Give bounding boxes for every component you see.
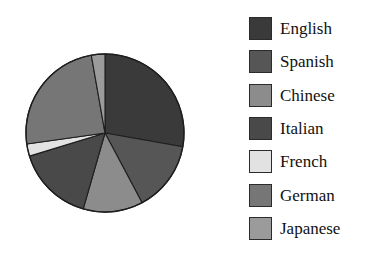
legend-item-label: Chinese bbox=[280, 87, 335, 104]
legend-swatch-icon bbox=[249, 184, 272, 207]
legend-swatch-icon bbox=[249, 17, 272, 40]
legend-swatch-icon bbox=[249, 217, 272, 240]
legend-swatch-icon bbox=[249, 150, 272, 173]
legend-item-label: English bbox=[280, 20, 332, 37]
legend-item-label: Italian bbox=[280, 120, 323, 137]
pie-chart-svg bbox=[23, 51, 187, 215]
legend-swatch-icon bbox=[249, 84, 272, 107]
legend-item-label: French bbox=[280, 153, 327, 170]
legend-item-german[interactable]: German bbox=[249, 178, 365, 211]
legend-item-italian[interactable]: Italian bbox=[249, 112, 365, 145]
legend-item-japanese[interactable]: Japanese bbox=[249, 212, 365, 245]
legend-swatch-icon bbox=[249, 117, 272, 140]
legend-item-label: German bbox=[280, 187, 335, 204]
legend-item-chinese[interactable]: Chinese bbox=[249, 79, 365, 112]
pie-chart-figure: EnglishSpanishChineseItalianFrenchGerman… bbox=[0, 0, 365, 267]
legend-item-spanish[interactable]: Spanish bbox=[249, 45, 365, 78]
chart-legend: EnglishSpanishChineseItalianFrenchGerman… bbox=[249, 12, 365, 257]
legend-item-french[interactable]: French bbox=[249, 145, 365, 178]
legend-item-label: Japanese bbox=[280, 220, 340, 237]
legend-swatch-icon bbox=[249, 50, 272, 73]
legend-item-label: Spanish bbox=[280, 53, 334, 70]
pie-slice-english[interactable] bbox=[105, 54, 184, 147]
pie-slice-group bbox=[26, 54, 184, 212]
pie-chart bbox=[23, 51, 187, 215]
legend-item-english[interactable]: English bbox=[249, 12, 365, 45]
